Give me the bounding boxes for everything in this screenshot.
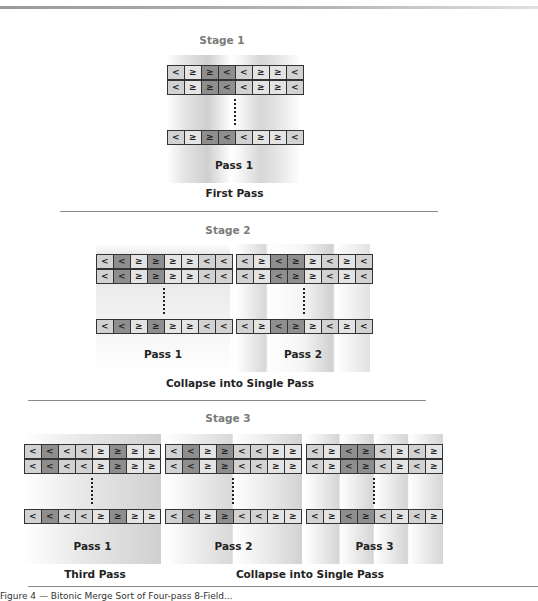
less-than-cell: < — [271, 270, 287, 283]
ellipsis-dots — [303, 288, 305, 314]
greater-equal-cell: ≥ — [426, 510, 442, 523]
less-than-cell: < — [219, 81, 235, 94]
less-than-cell: < — [341, 445, 357, 458]
cell-row: <≥<≥<≥<≥ — [306, 509, 443, 524]
less-than-cell: < — [216, 255, 232, 268]
stage-3-pass-3-group: <≥<≥<≥<≥<≥<≥<≥<≥<≥<≥<≥<≥Pass 3 — [306, 434, 443, 564]
less-than-cell: < — [199, 270, 215, 283]
less-than-cell: < — [76, 445, 92, 458]
greater-equal-cell: ≥ — [358, 445, 374, 458]
less-than-cell: < — [219, 66, 235, 79]
ellipsis-dots — [91, 478, 93, 504]
greater-equal-cell: ≥ — [110, 510, 126, 523]
ellipsis-dots — [163, 288, 165, 314]
less-than-cell: < — [216, 320, 232, 333]
less-than-cell: < — [59, 445, 75, 458]
greater-equal-cell: ≥ — [270, 66, 286, 79]
greater-equal-cell: ≥ — [254, 320, 270, 333]
less-than-cell: < — [251, 460, 267, 473]
greater-equal-cell: ≥ — [426, 460, 442, 473]
ellipsis-dots — [234, 99, 236, 125]
less-than-cell: < — [97, 270, 113, 283]
greater-equal-cell: ≥ — [148, 320, 164, 333]
less-than-cell: < — [356, 320, 372, 333]
greater-equal-cell: ≥ — [185, 81, 201, 94]
less-than-cell: < — [236, 131, 252, 144]
less-than-cell: < — [236, 66, 252, 79]
less-than-cell: < — [234, 445, 250, 458]
greater-equal-cell: ≥ — [285, 460, 301, 473]
cell-row: <≥<≥≥<≥< — [236, 269, 373, 284]
less-than-cell: < — [271, 320, 287, 333]
greater-equal-cell: ≥ — [268, 445, 284, 458]
greater-equal-cell: ≥ — [305, 270, 321, 283]
cell-row: <≥≥<<≥≥< — [167, 80, 304, 95]
less-than-cell: < — [114, 320, 130, 333]
cell-row: <≥<≥<≥<≥ — [306, 444, 443, 459]
ellipsis-dots — [232, 478, 234, 504]
greater-equal-cell: ≥ — [254, 270, 270, 283]
cell-row: <<≥≥≥≥<< — [96, 254, 233, 269]
cell-row: <≥≥<<≥≥< — [167, 130, 304, 145]
stage-1-label: Stage 1 — [162, 34, 282, 46]
greater-equal-cell: ≥ — [285, 445, 301, 458]
less-than-cell: < — [97, 320, 113, 333]
greater-equal-cell: ≥ — [127, 460, 143, 473]
greater-equal-cell: ≥ — [268, 510, 284, 523]
stage-2-caption: Collapse into Single Pass — [140, 377, 340, 389]
cell-row: <<≥≥<<≥≥ — [165, 509, 302, 524]
cell-row: <<<<≥≥≥≥ — [24, 459, 161, 474]
greater-equal-cell: ≥ — [131, 320, 147, 333]
cell-row: <<≥≥<<≥≥ — [165, 459, 302, 474]
greater-equal-cell: ≥ — [185, 131, 201, 144]
greater-equal-cell: ≥ — [268, 460, 284, 473]
less-than-cell: < — [25, 460, 41, 473]
less-than-cell: < — [76, 460, 92, 473]
less-than-cell: < — [237, 320, 253, 333]
greater-equal-cell: ≥ — [165, 320, 181, 333]
greater-equal-cell: ≥ — [144, 510, 160, 523]
greater-equal-cell: ≥ — [93, 510, 109, 523]
pass-label: Pass 2 — [165, 540, 302, 552]
greater-equal-cell: ≥ — [202, 81, 218, 94]
greater-equal-cell: ≥ — [358, 460, 374, 473]
less-than-cell: < — [409, 510, 425, 523]
greater-equal-cell: ≥ — [165, 270, 181, 283]
greater-equal-cell: ≥ — [288, 270, 304, 283]
greater-equal-cell: ≥ — [285, 510, 301, 523]
greater-equal-cell: ≥ — [392, 460, 408, 473]
greater-equal-cell: ≥ — [148, 255, 164, 268]
greater-equal-cell: ≥ — [93, 445, 109, 458]
less-than-cell: < — [114, 255, 130, 268]
less-than-cell: < — [216, 270, 232, 283]
less-than-cell: < — [234, 460, 250, 473]
less-than-cell: < — [166, 460, 182, 473]
cell-row: <<≥≥≥≥<< — [96, 269, 233, 284]
greater-equal-cell: ≥ — [182, 270, 198, 283]
less-than-cell: < — [409, 460, 425, 473]
cell-row: <<<<≥≥≥≥ — [24, 444, 161, 459]
less-than-cell: < — [25, 510, 41, 523]
greater-equal-cell: ≥ — [182, 255, 198, 268]
greater-equal-cell: ≥ — [254, 255, 270, 268]
stage-3-pass-1-group: <<<<≥≥≥≥<<<<≥≥≥≥<<<<≥≥≥≥Pass 1 — [24, 434, 161, 564]
greater-equal-cell: ≥ — [392, 445, 408, 458]
less-than-cell: < — [183, 460, 199, 473]
pass-label: Pass 2 — [236, 348, 370, 360]
stage-3-pass-2-group: <<≥≥<<≥≥<<≥≥<<≥≥<<≥≥<<≥≥Pass 2 — [165, 434, 302, 564]
greater-equal-cell: ≥ — [305, 255, 321, 268]
less-than-cell: < — [287, 66, 303, 79]
greater-equal-cell: ≥ — [339, 255, 355, 268]
divider — [28, 400, 426, 401]
less-than-cell: < — [183, 445, 199, 458]
stage-2-pass-2-group: <≥<≥≥<≥<<≥<≥≥<≥<<≥<≥≥<≥<Pass 2 — [236, 244, 370, 372]
less-than-cell: < — [166, 445, 182, 458]
greater-equal-cell: ≥ — [217, 460, 233, 473]
greater-equal-cell: ≥ — [426, 445, 442, 458]
greater-equal-cell: ≥ — [110, 460, 126, 473]
cell-row: <≥≥<<≥≥< — [167, 65, 304, 80]
less-than-cell: < — [168, 81, 184, 94]
greater-equal-cell: ≥ — [253, 81, 269, 94]
less-than-cell: < — [168, 131, 184, 144]
greater-equal-cell: ≥ — [339, 270, 355, 283]
